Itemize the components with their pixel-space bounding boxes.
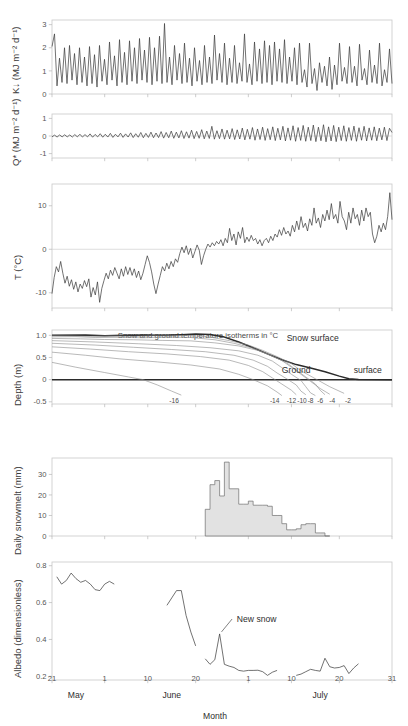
panel4-ylabel-depth: Depth (m) [12,364,23,406]
svg-text:-16: -16 [169,397,179,404]
multi-panel-time-series-figure: K↓ (MJ m⁻² d⁻¹) 0123 Q* (MJ m⁻² d⁻¹) -10… [0,0,408,726]
svg-text:20: 20 [191,674,199,683]
x-axis: 21110201102031MayJuneJulyMonth [30,672,400,726]
panel-snow-ground-isotherms: -0.500.51.0Snow and ground temperature i… [30,324,400,420]
svg-text:0.5: 0.5 [36,353,47,362]
svg-text:30: 30 [38,470,46,479]
svg-text:0.8: 0.8 [36,561,47,570]
svg-text:1.0: 1.0 [36,331,47,340]
svg-text:2: 2 [42,43,46,52]
svg-text:0.6: 0.6 [36,598,47,607]
svg-text:-1: -1 [40,149,47,158]
svg-text:1: 1 [42,114,46,123]
svg-text:surface: surface [354,365,382,375]
svg-text:-10: -10 [36,288,47,297]
panel-daily-snowmelt: 0102030 [30,452,400,550]
svg-text:0.4: 0.4 [36,635,47,644]
svg-text:-8: -8 [308,397,314,404]
svg-text:20: 20 [38,491,46,500]
svg-text:0: 0 [42,245,46,254]
svg-text:June: June [162,690,181,700]
svg-text:New snow: New snow [237,614,277,624]
svg-text:1: 1 [42,67,46,76]
svg-text:-6: -6 [317,397,323,404]
svg-text:10: 10 [144,674,152,683]
svg-text:July: July [313,690,329,700]
svg-text:Month: Month [203,711,227,721]
panel2-ylabel-qstar: Q* (MJ m⁻² d⁻¹) [10,98,21,166]
svg-text:10: 10 [38,511,46,520]
svg-text:10: 10 [38,201,46,210]
svg-text:21: 21 [48,674,56,683]
svg-text:-14: -14 [270,397,280,404]
svg-text:10: 10 [287,674,295,683]
svg-text:0: 0 [42,132,46,141]
svg-text:0: 0 [42,375,46,384]
svg-text:-10: -10 [297,397,307,404]
svg-text:0: 0 [42,532,46,541]
svg-text:May: May [68,690,85,700]
panel3-ylabel-temperature: T (°C) [12,255,23,280]
panel-air-temperature: -10010 [30,178,400,322]
svg-text:1: 1 [246,674,250,683]
panel6-ylabel-albedo: Albedo (dimensionless) [12,579,23,678]
svg-text:-12: -12 [287,397,297,404]
svg-text:31: 31 [388,674,396,683]
svg-text:-4: -4 [329,397,335,404]
svg-text:-2: -2 [345,397,351,404]
svg-text:3: 3 [42,20,46,29]
panel-kdown-shortwave: 0123 [30,14,400,106]
panel1-ylabel-kdown: K↓ (MJ m⁻² d⁻¹) [10,26,21,94]
svg-text:20: 20 [335,674,343,683]
panel-qstar-net-radiation: -101 [30,108,400,170]
svg-text:Snow surface: Snow surface [287,333,339,343]
svg-text:0: 0 [42,90,46,99]
panel5-ylabel-snowmelt: Daily snowmelt (mm) [12,466,23,555]
svg-text:Ground: Ground [282,365,311,375]
svg-text:1: 1 [103,674,107,683]
svg-text:-0.5: -0.5 [33,397,46,406]
